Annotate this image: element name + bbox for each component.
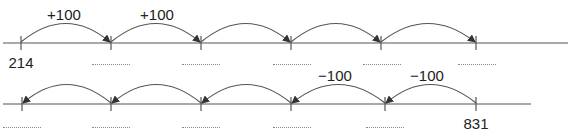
jump-label-4: −100: [410, 68, 444, 83]
end-value-label: 831: [463, 116, 488, 131]
answer-blank-2-1[interactable]: [3, 127, 41, 128]
answer-blank-1-3[interactable]: [273, 64, 311, 65]
number-lines-canvas: [0, 0, 575, 136]
answer-blank-2-5[interactable]: [366, 127, 404, 128]
answer-blank-2-2[interactable]: [92, 127, 130, 128]
answer-blank-1-1[interactable]: [92, 64, 130, 65]
answer-blank-1-5[interactable]: [458, 64, 496, 65]
answer-blank-2-3[interactable]: [182, 127, 220, 128]
jump-label-2: +100: [140, 7, 174, 22]
jump-arcs-line-1: [21, 24, 475, 43]
number-line-2: [3, 85, 531, 112]
answer-blank-1-4[interactable]: [363, 64, 401, 65]
jump-arcs-line-2: [23, 85, 476, 104]
start-value-label: 214: [8, 55, 33, 70]
jump-label-3: −100: [318, 68, 352, 83]
jump-label-1: +100: [47, 7, 81, 22]
answer-blank-1-2[interactable]: [182, 64, 220, 65]
number-line-1: [3, 24, 568, 51]
answer-blank-2-4[interactable]: [273, 127, 311, 128]
